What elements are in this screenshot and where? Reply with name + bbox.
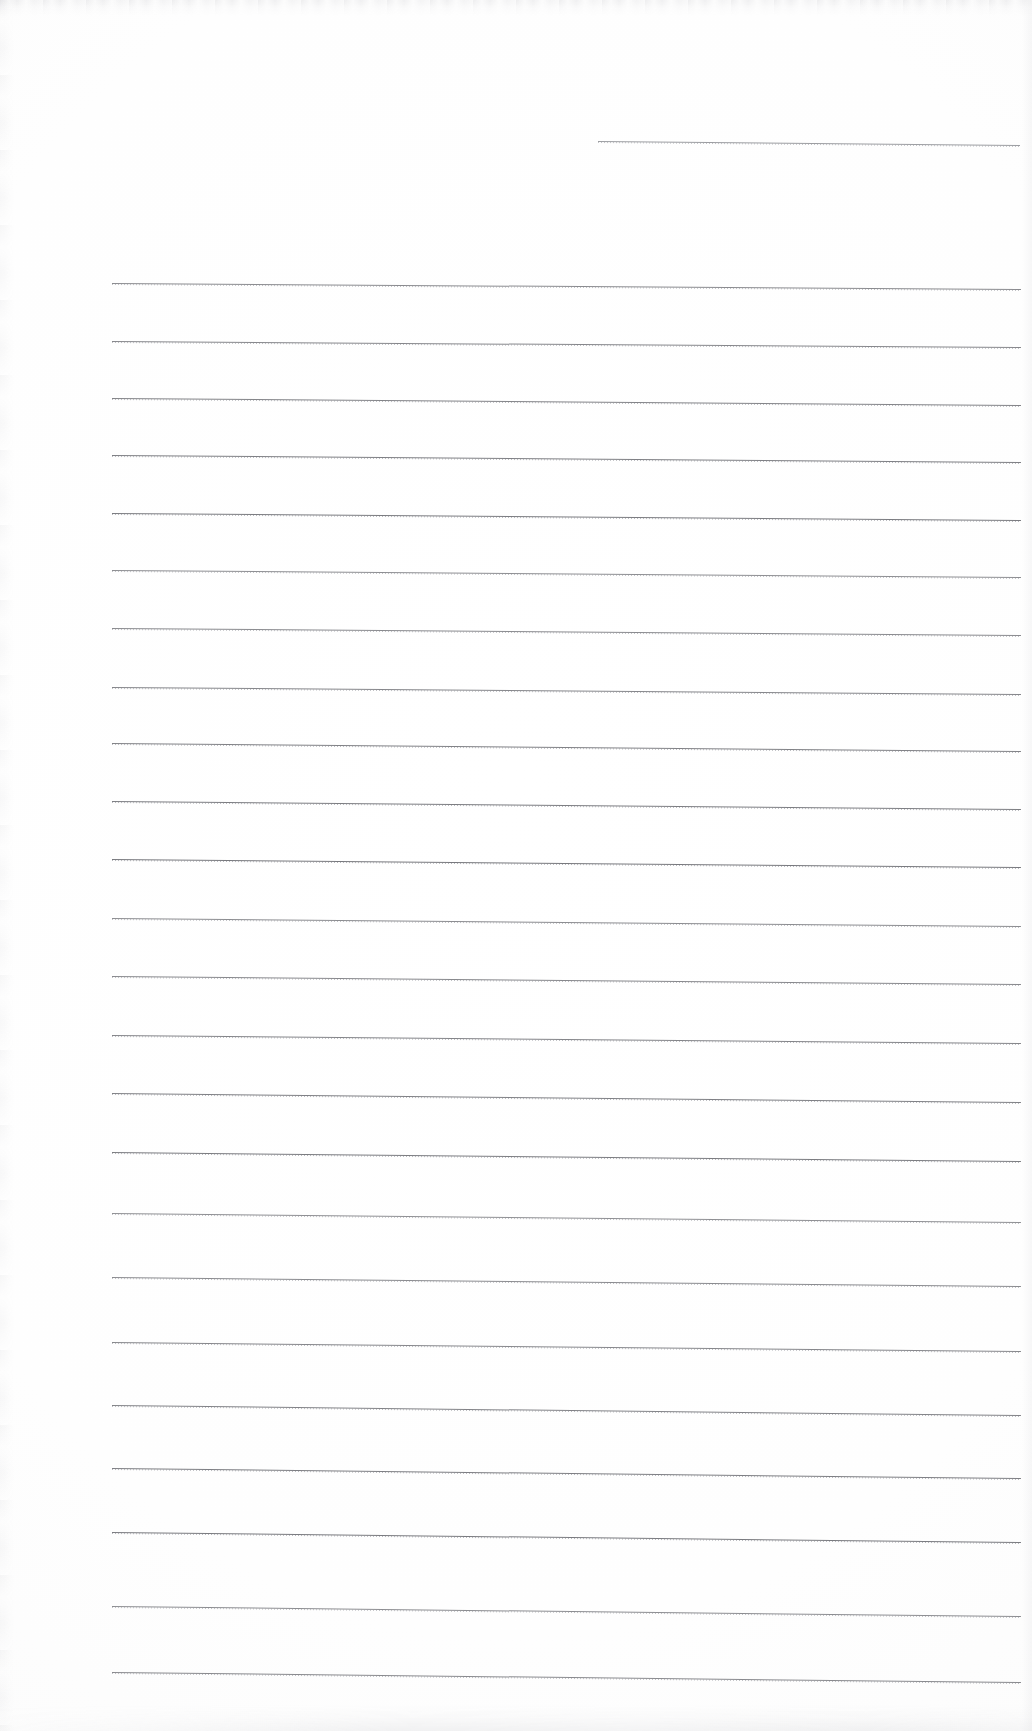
scanned-page xyxy=(0,0,1032,1731)
